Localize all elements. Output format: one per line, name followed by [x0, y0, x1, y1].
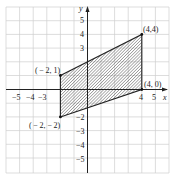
x-tick-label: −5: [12, 93, 21, 102]
y-tick-label: 5: [80, 16, 84, 25]
y-tick-label: −3: [76, 127, 85, 136]
point-label: (4, 0): [144, 80, 162, 89]
x-tick-label: 4: [139, 93, 143, 102]
vertex-point: [59, 116, 62, 119]
x-tick-label: −3: [38, 93, 47, 102]
y-tick-label: 3: [80, 44, 84, 53]
coordinate-plane: y x −5 −4 −3 4 5 5 4 3 −2 −3 −4 −5 ( − 2…: [0, 0, 175, 181]
x-tick-label: 5: [152, 93, 156, 102]
x-tick-label: −4: [26, 93, 35, 102]
y-tick-label: −5: [76, 155, 85, 164]
point-label: (4,4): [143, 25, 159, 34]
vertex-point: [140, 88, 143, 91]
x-axis-label: x: [162, 93, 167, 102]
point-label: ( − 2, − 2): [29, 121, 60, 130]
y-tick-label: −2: [76, 113, 85, 122]
point-label: ( − 2, 1): [35, 66, 60, 75]
y-tick-label: 4: [80, 30, 84, 39]
y-tick-label: −4: [76, 141, 85, 150]
y-axis-label: y: [78, 4, 83, 13]
